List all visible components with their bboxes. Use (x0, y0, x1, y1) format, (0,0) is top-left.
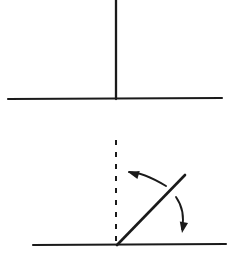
fall-arrow-down-icon (176, 197, 188, 233)
tilted-rod (117, 175, 185, 245)
diagram-svg (0, 0, 233, 256)
rotation-arrow-left-head (128, 171, 140, 179)
rotation-arrow-left-icon (128, 171, 166, 186)
lower-ground-line (33, 244, 226, 245)
diagram-canvas: Rod tilting from vertical to inclined po… (0, 0, 233, 256)
upper-panel (8, 0, 222, 99)
fall-arrow-down-head (180, 221, 188, 233)
lower-panel (33, 140, 226, 245)
